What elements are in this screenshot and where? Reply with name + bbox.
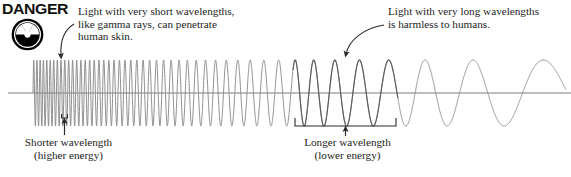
chirp-wave-path bbox=[33, 60, 566, 126]
wavelength-energy-figure: DANGER Light with very short wavelengths… bbox=[0, 0, 571, 177]
chirp-wave-emphasis-path bbox=[293, 60, 398, 126]
radiation-trefoil-icon bbox=[11, 18, 44, 51]
long-wavelength-callout-text: Light with very long wavelengths is harm… bbox=[388, 5, 571, 30]
shorter-wavelength-label: Shorter wavelength (higher energy) bbox=[2, 136, 135, 162]
short-wavelength-callout-text: Light with very short wavelengths, like … bbox=[78, 5, 268, 43]
longer-wavelength-label: Longer wavelength (lower energy) bbox=[281, 136, 414, 162]
short-wavelength-bracket bbox=[62, 114, 68, 118]
danger-label: DANGER bbox=[2, 1, 65, 17]
long-wavelength-callout-arrow bbox=[346, 25, 384, 54]
long-wavelength-bracket bbox=[295, 118, 396, 126]
danger-warning-badge: DANGER bbox=[2, 1, 64, 52]
